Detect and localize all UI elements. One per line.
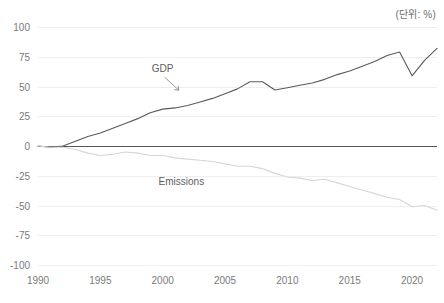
gridlines-group — [38, 28, 437, 266]
series-line-gdp — [38, 48, 437, 147]
y-axis-tick-label: 50 — [19, 82, 31, 93]
x-axis-tick-label: 1990 — [27, 275, 50, 286]
y-axis-tick-label: -50 — [16, 201, 31, 212]
x-axis-tick-label: 2020 — [401, 275, 424, 286]
line-chart-plot: 1007550250-25-50-75-100 1990199520002005… — [0, 0, 444, 303]
x-axis-tick-label: 2010 — [276, 275, 299, 286]
x-axis-tick-label: 1995 — [89, 275, 112, 286]
gdp-annotation: GDP — [152, 63, 174, 74]
y-axis-tick-labels: 1007550250-25-50-75-100 — [10, 22, 30, 271]
data-series-group — [38, 48, 437, 210]
chart-container: (단위: %) 1007550250-25-50-75-100 19901995… — [0, 0, 444, 303]
x-axis-tick-label: 2015 — [339, 275, 362, 286]
x-axis-tick-labels: 1990199520002005201020152020 — [27, 275, 424, 286]
y-axis-tick-label: -100 — [10, 260, 30, 271]
x-axis-tick-label: 2005 — [214, 275, 237, 286]
series-annotations-group: GDPEmissions — [152, 63, 204, 187]
emissions-annotation: Emissions — [159, 176, 205, 187]
y-axis-tick-label: 25 — [19, 111, 31, 122]
x-axis-tick-label: 2000 — [152, 275, 175, 286]
gdp-annotation-arrow-icon — [165, 77, 179, 90]
y-axis-tick-label: 75 — [19, 52, 31, 63]
series-line-emissions — [38, 146, 437, 210]
y-axis-tick-label: 100 — [13, 22, 30, 33]
y-axis-tick-label: -25 — [16, 171, 31, 182]
y-axis-tick-label: 0 — [24, 141, 30, 152]
y-axis-tick-label: -75 — [16, 230, 31, 241]
